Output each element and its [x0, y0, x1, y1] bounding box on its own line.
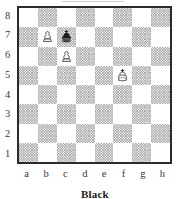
square-d6[interactable] — [76, 47, 95, 66]
square-g3[interactable] — [132, 104, 151, 123]
square-a5[interactable] — [19, 66, 38, 85]
file-label-g: g — [133, 167, 152, 181]
square-b8[interactable] — [38, 8, 57, 27]
rank-label-7: 7 — [0, 26, 15, 46]
square-c7[interactable] — [57, 27, 76, 46]
square-d8[interactable] — [76, 8, 95, 27]
square-a7[interactable] — [19, 27, 38, 46]
square-e6[interactable] — [95, 47, 114, 66]
white-pawn-icon — [38, 27, 57, 46]
file-label-c: c — [56, 167, 75, 181]
file-label-e: e — [95, 167, 114, 181]
square-a1[interactable] — [19, 143, 38, 162]
square-a6[interactable] — [19, 47, 38, 66]
file-label-a: a — [17, 167, 36, 181]
square-f2[interactable] — [113, 124, 132, 143]
square-f3[interactable] — [113, 104, 132, 123]
square-c3[interactable] — [57, 104, 76, 123]
square-d1[interactable] — [76, 143, 95, 162]
square-g8[interactable] — [132, 8, 151, 27]
chess-diagram: 8 7 6 5 4 3 2 1 — [0, 0, 190, 199]
square-c6[interactable] — [57, 47, 76, 66]
square-c4[interactable] — [57, 85, 76, 104]
rank-label-6: 6 — [0, 46, 15, 66]
square-h4[interactable] — [151, 85, 170, 104]
black-king-icon — [57, 27, 76, 46]
square-b5[interactable] — [38, 66, 57, 85]
square-e2[interactable] — [95, 124, 114, 143]
square-b2[interactable] — [38, 124, 57, 143]
square-h5[interactable] — [151, 66, 170, 85]
square-f1[interactable] — [113, 143, 132, 162]
square-a3[interactable] — [19, 104, 38, 123]
square-c1[interactable] — [57, 143, 76, 162]
square-e7[interactable] — [95, 27, 114, 46]
chessboard-grid — [19, 8, 170, 162]
square-h2[interactable] — [151, 124, 170, 143]
square-g4[interactable] — [132, 85, 151, 104]
square-h8[interactable] — [151, 8, 170, 27]
square-e3[interactable] — [95, 104, 114, 123]
rank-label-4: 4 — [0, 85, 15, 105]
square-f8[interactable] — [113, 8, 132, 27]
file-label-b: b — [36, 167, 55, 181]
square-d5[interactable] — [76, 66, 95, 85]
square-b1[interactable] — [38, 143, 57, 162]
square-e1[interactable] — [95, 143, 114, 162]
square-h7[interactable] — [151, 27, 170, 46]
square-g1[interactable] — [132, 143, 151, 162]
square-e4[interactable] — [95, 85, 114, 104]
white-pawn-icon — [57, 47, 76, 66]
rank-label-3: 3 — [0, 105, 15, 125]
square-b3[interactable] — [38, 104, 57, 123]
square-b4[interactable] — [38, 85, 57, 104]
scan-artifact-line — [62, 1, 124, 2]
white-king-icon — [113, 66, 132, 85]
rank-label-column: 8 7 6 5 4 3 2 1 — [0, 6, 15, 164]
square-c5[interactable] — [57, 66, 76, 85]
file-label-row: a b c d e f g h — [17, 167, 172, 181]
rank-label-8: 8 — [0, 6, 15, 26]
diagram-caption: Black — [0, 188, 190, 199]
square-b7[interactable] — [38, 27, 57, 46]
file-label-h: h — [153, 167, 172, 181]
square-a8[interactable] — [19, 8, 38, 27]
square-d7[interactable] — [76, 27, 95, 46]
square-e8[interactable] — [95, 8, 114, 27]
square-c8[interactable] — [57, 8, 76, 27]
chessboard — [17, 6, 172, 164]
square-f6[interactable] — [113, 47, 132, 66]
square-g6[interactable] — [132, 47, 151, 66]
square-e5[interactable] — [95, 66, 114, 85]
rank-label-2: 2 — [0, 125, 15, 145]
file-label-d: d — [75, 167, 94, 181]
rank-label-5: 5 — [0, 65, 15, 85]
square-d4[interactable] — [76, 85, 95, 104]
square-d2[interactable] — [76, 124, 95, 143]
square-g7[interactable] — [132, 27, 151, 46]
square-h6[interactable] — [151, 47, 170, 66]
square-f7[interactable] — [113, 27, 132, 46]
square-d3[interactable] — [76, 104, 95, 123]
square-g2[interactable] — [132, 124, 151, 143]
square-f4[interactable] — [113, 85, 132, 104]
square-a4[interactable] — [19, 85, 38, 104]
square-f5[interactable] — [113, 66, 132, 85]
file-label-f: f — [114, 167, 133, 181]
square-h3[interactable] — [151, 104, 170, 123]
square-c2[interactable] — [57, 124, 76, 143]
rank-label-1: 1 — [0, 144, 15, 164]
square-h1[interactable] — [151, 143, 170, 162]
square-g5[interactable] — [132, 66, 151, 85]
square-a2[interactable] — [19, 124, 38, 143]
square-b6[interactable] — [38, 47, 57, 66]
